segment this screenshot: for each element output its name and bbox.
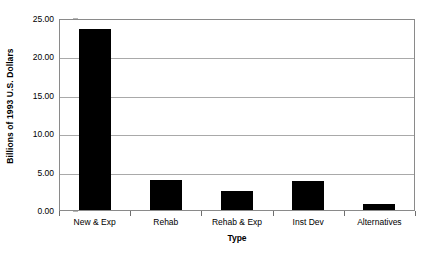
bar-series (60, 20, 414, 210)
x-axis-title: Type (59, 233, 415, 243)
bar (221, 191, 253, 210)
x-axis-tick-label: New & Exp (59, 217, 130, 227)
y-axis-tick-label: 10.00 (33, 129, 54, 139)
y-axis-title-text: Billions of 1993 U.S. Dollars (5, 48, 15, 163)
y-axis-tick-label: 5.00 (37, 168, 54, 178)
y-axis-tick-label: 20.00 (33, 52, 54, 62)
bar (150, 180, 182, 210)
bar (363, 204, 395, 210)
x-axis-tick-mark (59, 211, 60, 216)
bar-slot (272, 20, 343, 210)
y-axis-title: Billions of 1993 U.S. Dollars (0, 0, 19, 211)
x-axis-tick-label: Alternatives (344, 217, 415, 227)
bar (79, 29, 111, 210)
bar-slot (202, 20, 273, 210)
bar-slot (131, 20, 202, 210)
x-axis-tick-label: Rehab (130, 217, 201, 227)
x-axis-tick-labels: New & ExpRehabRehab & ExpInst DevAlterna… (59, 217, 415, 227)
x-axis-tick-marks (59, 211, 415, 216)
x-axis-tick-mark (201, 211, 202, 216)
y-axis-tick-labels: 0.005.0010.0015.0020.0025.00 (19, 0, 57, 258)
y-axis-tick-label: 15.00 (33, 91, 54, 101)
y-axis-tick-label: 25.00 (33, 14, 54, 24)
x-axis-tick-mark (273, 211, 274, 216)
bar-slot (60, 20, 131, 210)
x-axis-tick-label: Inst Dev (273, 217, 344, 227)
plot-area (59, 19, 415, 211)
bar-chart-figure: Billions of 1993 U.S. Dollars 0.005.0010… (0, 0, 433, 258)
y-axis-tick-label: 0.00 (37, 206, 54, 216)
x-axis-tick-label: Rehab & Exp (201, 217, 272, 227)
x-axis-tick-mark (344, 211, 345, 216)
bar-slot (343, 20, 414, 210)
bar (292, 181, 324, 210)
x-axis-tick-mark (415, 211, 416, 216)
x-axis-tick-mark (130, 211, 131, 216)
